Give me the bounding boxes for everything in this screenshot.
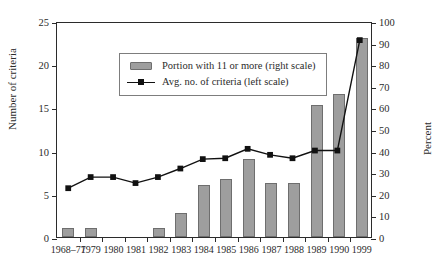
right-tick-mark [371,196,376,197]
right-tick-mark [371,23,376,24]
bottom-tick-mark [170,237,171,242]
bottom-tick-label: 1987 [261,245,281,255]
left-tick-label: 15 [39,104,50,115]
plot-area: 0510152025 0102030405060708090100 1968–7… [56,22,372,238]
bottom-tick-label: 1988 [284,245,304,255]
legend-label-bars: Portion with 11 or more (right scale) [162,61,316,72]
line-marker [245,146,251,152]
bar-swatch-icon [127,59,155,73]
line-marker [88,174,94,180]
right-tick-label: 0 [379,234,384,245]
right-tick-label: 40 [379,148,390,159]
bottom-tick-mark [350,237,351,242]
legend-entry-line: Avg. no. of criteria (left scale) [127,74,319,90]
right-tick-mark [371,131,376,132]
left-tick-label: 5 [44,191,49,202]
line-marker [133,180,139,186]
left-tick-mark [52,153,57,154]
chart-legend: Portion with 11 or more (right scale) Av… [119,53,327,96]
line-marker [267,152,273,158]
bottom-tick-mark [80,237,81,242]
bottom-tick-label: 1986 [239,245,259,255]
bottom-tick-mark [283,237,284,242]
left-tick-mark [52,66,57,67]
line-marker [65,185,71,191]
bottom-tick-mark [125,237,126,242]
line-marker [357,37,363,43]
line-marker [110,174,116,180]
left-tick-mark [52,23,57,24]
left-tick-mark [52,109,57,110]
bottom-tick-mark [238,237,239,242]
bottom-tick-mark [147,237,148,242]
line-swatch-icon [127,75,155,89]
right-tick-mark [371,174,376,175]
right-tick-label: 50 [379,126,390,137]
right-tick-mark [371,239,376,240]
right-axis-title: Percent [421,122,433,155]
right-tick-mark [371,109,376,110]
line-marker [222,155,228,161]
bottom-tick-label: 1979 [81,245,101,255]
right-tick-mark [371,45,376,46]
right-tick-mark [371,217,376,218]
bottom-tick-label: 1981 [126,245,146,255]
left-tick-label: 0 [44,234,49,245]
left-axis-title: Number of criteria [6,48,18,130]
right-tick-mark [371,153,376,154]
bottom-tick-label: 1980 [103,245,123,255]
right-tick-label: 20 [379,191,390,202]
bottom-tick-label: 1990 [329,245,349,255]
right-tick-label: 90 [379,40,390,51]
left-tick-label: 20 [39,61,50,72]
bottom-tick-label: 1999 [352,245,372,255]
right-tick-mark [371,66,376,67]
chart-container: Number of criteria Percent 0510152025 01… [0,0,436,265]
right-tick-label: 80 [379,61,390,72]
left-tick-label: 25 [39,18,50,29]
bottom-tick-label: 1984 [194,245,214,255]
right-tick-label: 60 [379,104,390,115]
left-tick-label: 10 [39,148,50,159]
legend-entry-bars: Portion with 11 or more (right scale) [127,58,319,74]
line-marker [177,166,183,172]
bottom-tick-label: 1989 [307,245,327,255]
line-marker [312,148,318,154]
bottom-tick-label: 1982 [149,245,169,255]
bottom-tick-label: 1983 [171,245,191,255]
legend-label-line: Avg. no. of criteria (left scale) [162,77,289,88]
bottom-tick-mark [215,237,216,242]
line-marker [334,148,340,154]
bottom-tick-mark [328,237,329,242]
right-tick-label: 10 [379,212,390,223]
right-tick-mark [371,88,376,89]
bottom-tick-mark [260,237,261,242]
right-tick-label: 70 [379,83,390,94]
bottom-tick-mark [192,237,193,242]
line-marker [200,156,206,162]
bottom-tick-label: 1985 [216,245,236,255]
line-marker [290,155,296,161]
left-tick-mark [52,196,57,197]
bottom-tick-mark [102,237,103,242]
left-tick-mark [52,239,57,240]
bottom-tick-mark [305,237,306,242]
right-tick-label: 100 [379,18,395,29]
line-marker [155,174,161,180]
right-tick-label: 30 [379,169,390,180]
